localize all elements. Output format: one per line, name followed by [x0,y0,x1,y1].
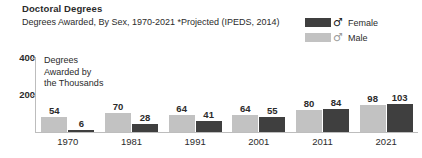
bar-value-label: 98 [367,94,378,104]
bar-female-2011[interactable]: 84 [323,109,349,132]
bar-female-1981[interactable]: 28 [132,124,158,132]
y-tick-200: 200 [0,95,35,96]
chart-title: Doctoral Degrees [22,3,102,14]
bar-male-1991[interactable]: 64 [169,115,195,132]
x-axis-label-1991: 1991 [163,136,227,147]
y-tick-mark [31,58,35,59]
bar-group: 6455 [232,57,285,132]
bar-value-label: 54 [49,106,60,116]
x-axis-line [35,132,418,133]
bar-value-label: 41 [203,110,214,120]
bar-value-label: 84 [331,98,342,108]
chart-subtitle: Degrees Awarded, By Sex, 1970-2021 *Proj… [22,17,279,27]
plot-area: 546702864416455808498103 [36,57,418,132]
bar-group: 8084 [296,57,349,132]
legend-item-female[interactable]: ♂ Female [305,16,420,29]
mars-symbol-icon-male: ♂ [331,32,345,43]
legend-swatch-female [305,18,331,27]
x-axis-label-2001: 2001 [227,136,291,147]
bar-value-label: 64 [240,104,251,114]
bar-value-label: 80 [304,99,315,109]
bar-value-label: 28 [140,113,151,123]
bar-value-label: 103 [392,93,408,103]
bar-value-label: 64 [176,104,187,114]
x-axis-label-1970: 1970 [36,136,100,147]
legend-label-female: Female [345,18,378,28]
bar-male-2011[interactable]: 80 [296,110,322,132]
y-tick-400: 400 [0,58,35,59]
bar-male-2021[interactable]: 98 [360,105,386,132]
bar-male-1970[interactable]: 54 [41,117,67,132]
chart-legend: ♂ Female ♂ Male [305,16,420,46]
doctoral-degrees-chart: Doctoral Degrees Degrees Awarded, By Sex… [0,0,422,158]
legend-item-male[interactable]: ♂ Male [305,31,420,44]
bar-female-2001[interactable]: 55 [259,117,285,132]
x-axis-label-2011: 2011 [291,136,355,147]
bar-female-2021[interactable]: 103 [387,104,413,132]
bar-group: 7028 [105,57,158,132]
bar-value-label: 55 [267,106,278,116]
bar-male-2001[interactable]: 64 [232,115,258,132]
bar-female-1970[interactable]: 6 [68,130,94,132]
bar-female-1991[interactable]: 41 [196,121,222,132]
bar-male-1981[interactable]: 70 [105,113,131,132]
x-axis-label-2021: 2021 [354,136,418,147]
bar-group: 546 [41,57,94,132]
mars-symbol-icon-female: ♂ [331,17,345,28]
legend-swatch-male [305,33,331,42]
bar-value-label: 6 [79,119,84,129]
y-tick-mark [31,95,35,96]
x-axis-label-1981: 1981 [100,136,164,147]
bar-group: 6441 [169,57,222,132]
legend-label-male: Male [345,33,368,43]
bar-value-label: 70 [113,102,124,112]
bar-group: 98103 [360,57,413,132]
